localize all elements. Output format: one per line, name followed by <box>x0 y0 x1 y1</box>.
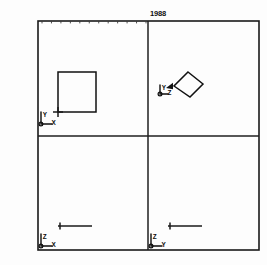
square-outline <box>58 72 96 112</box>
drawing-title: 1988 <box>150 9 166 18</box>
axis-triad-bottom-right: ZY <box>149 233 166 249</box>
axis-triad-top-left: YX <box>39 111 56 127</box>
axis-label-vertical: Y <box>162 84 167 91</box>
axis-label-horizontal: X <box>52 119 57 126</box>
axis-triad-top-right: YZ <box>158 84 171 97</box>
axis-label-vertical: Z <box>153 233 157 240</box>
axis-label-horizontal: Y <box>162 241 167 248</box>
drawing-svg: 1988 YX YZ ZX ZY <box>0 0 267 265</box>
axis-label-horizontal: X <box>52 241 57 248</box>
parallelogram-outline <box>174 72 203 97</box>
scale-bar-left <box>58 223 92 230</box>
axis-label-vertical: Y <box>43 111 48 118</box>
scale-bar-right <box>168 223 202 230</box>
axis-triad-bottom-left: ZX <box>39 233 56 249</box>
axis-label-horizontal: Z <box>168 89 172 96</box>
square-corner-marker <box>53 107 63 117</box>
technical-drawing-canvas: 1988 YX YZ ZX ZY <box>0 0 267 265</box>
axis-label-vertical: Z <box>43 233 47 240</box>
